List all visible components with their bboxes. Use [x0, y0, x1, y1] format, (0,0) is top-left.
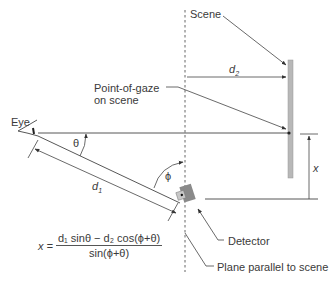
scene-leader [223, 16, 286, 65]
formula-denominator: sin(ϕ+θ) [89, 246, 129, 259]
point-of-gaze-label-2: on scene [94, 94, 139, 106]
formula: x = d₁ sinθ − d₂ cos(ϕ+θ) sin(ϕ+θ) [38, 232, 162, 259]
point-of-gaze-leader [166, 87, 286, 129]
point-of-gaze-label-1: Point-of-gaze [94, 82, 159, 94]
plane-label: Plane parallel to scene [217, 261, 328, 273]
formula-lhs: x = [38, 240, 53, 252]
scene-label: Scene [190, 8, 221, 20]
detector-leader [198, 209, 224, 240]
d1-subscript: 1 [98, 187, 102, 194]
eye-label: Eye [11, 116, 30, 128]
d2-label: d2 [229, 63, 239, 80]
theta-label: θ [73, 137, 79, 149]
x-label: x [313, 162, 319, 174]
phi-label: ϕ [165, 170, 171, 182]
plane-leader [185, 233, 214, 266]
d1-label: d1 [92, 180, 102, 197]
formula-numerator: d₁ sinθ − d₂ cos(ϕ+θ) [56, 232, 162, 246]
scene-bar [288, 60, 293, 178]
d2-subscript: 2 [235, 70, 239, 77]
theta-arc [80, 134, 86, 156]
d1-arrow [35, 149, 176, 213]
detector-label: Detector [228, 235, 270, 247]
detector-icon [175, 184, 196, 204]
eye-detector-line [38, 136, 180, 203]
formula-fraction: d₁ sinθ − d₂ cos(ϕ+θ) sin(ϕ+θ) [56, 232, 162, 259]
